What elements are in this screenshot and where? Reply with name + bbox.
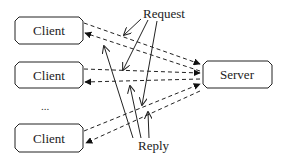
server-node: Server: [203, 61, 272, 88]
request-line-client-2: [84, 69, 200, 73]
server-label: Server: [220, 67, 255, 82]
client-label-2: Client: [33, 68, 65, 83]
reply-label: Reply: [138, 138, 170, 153]
ellipsis-more-clients: ...: [41, 100, 50, 112]
client-node-2: Client: [15, 62, 83, 88]
request-line-client-1: [84, 23, 200, 64]
request-label: Request: [143, 6, 185, 21]
client-node-1: Client: [15, 17, 83, 44]
reply-pointer-3: [148, 112, 149, 138]
request-pointer-1: [124, 19, 141, 35]
reply-line-client-2: [85, 79, 200, 82]
request-line-client-3: [84, 84, 200, 131]
client-node-3: Client: [15, 124, 83, 152]
request-pointer-3: [142, 21, 157, 105]
reply-line-client-1: [85, 33, 200, 71]
client-label-3: Client: [33, 131, 65, 146]
request-pointer-2: [123, 20, 148, 70]
client-server-diagram: Client Client ... Client Server Reques: [0, 0, 285, 163]
client-label-1: Client: [33, 23, 65, 38]
